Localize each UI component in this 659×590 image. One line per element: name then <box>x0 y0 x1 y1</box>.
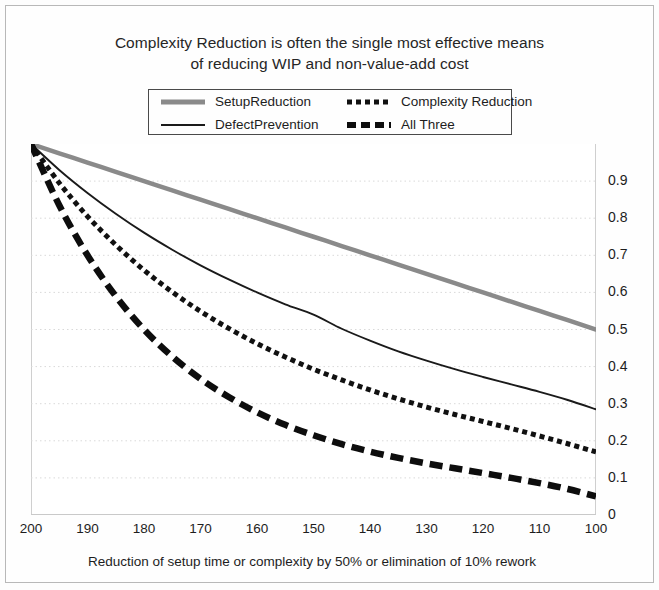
y-axis-tick-label: 0.1 <box>608 469 654 485</box>
legend-label-complexity-reduction: Complexity Reduction <box>401 94 532 109</box>
x-axis-tick-label: 130 <box>404 521 450 536</box>
x-axis-tick-label: 180 <box>121 521 167 536</box>
x-axis-tick-label: 120 <box>460 521 506 536</box>
solid-thin-black-line-icon <box>160 118 206 132</box>
legend-item-defect-prevention: DefectPrevention <box>149 117 335 132</box>
x-axis-label: Reduction of setup time or complexity by… <box>0 554 624 569</box>
legend-item-all-three: All Three <box>335 117 513 132</box>
y-axis-tick-label: 0.9 <box>608 172 654 188</box>
y-axis-tick-label: 0.8 <box>608 209 654 225</box>
x-axis-tick-label: 110 <box>517 521 563 536</box>
legend-item-complexity-reduction: Complexity Reduction <box>335 94 513 109</box>
x-axis-tick-label: 170 <box>178 521 224 536</box>
solid-thick-gray-line-icon <box>160 95 206 109</box>
series-line <box>31 144 596 496</box>
y-axis-tick-label: 0.4 <box>608 358 654 374</box>
y-axis-tick-label: 0.2 <box>608 432 654 448</box>
chart-title-line-1: Complexity Reduction is often the single… <box>0 32 659 53</box>
plot-area <box>31 144 596 515</box>
plot-canvas <box>31 144 596 515</box>
x-axis-tick-label: 100 <box>573 521 619 536</box>
legend-label-all-three: All Three <box>401 117 455 132</box>
dotted-black-line-icon <box>346 95 392 109</box>
y-axis-tick-label: 0.3 <box>608 395 654 411</box>
x-axis-tick-label: 200 <box>8 521 54 536</box>
series-line <box>31 144 596 452</box>
x-axis-tick-label: 160 <box>234 521 280 536</box>
y-axis-tick-label: 0 <box>608 506 654 522</box>
series-line <box>31 144 596 330</box>
series-lines <box>31 144 596 496</box>
dashed-thick-black-line-icon <box>346 118 392 132</box>
y-axis-tick-label: 0.5 <box>608 321 654 337</box>
x-axis-tick-label: 150 <box>291 521 337 536</box>
chart-title-line-2: of reducing WIP and non-value-add cost <box>0 53 659 74</box>
legend-label-defect-prevention: DefectPrevention <box>215 117 319 132</box>
gridlines <box>31 181 596 514</box>
legend-label-setup-reduction: SetupReduction <box>215 94 311 109</box>
chart-title: Complexity Reduction is often the single… <box>0 32 659 74</box>
x-axis-tick-label: 140 <box>347 521 393 536</box>
chart-figure: Complexity Reduction is often the single… <box>0 0 659 590</box>
x-axis-tick-label: 190 <box>65 521 111 536</box>
legend-item-setup-reduction: SetupReduction <box>149 94 335 109</box>
series-line <box>31 144 596 409</box>
y-axis-tick-label: 0.7 <box>608 246 654 262</box>
y-axis-tick-label: 0.6 <box>608 283 654 299</box>
chart-legend: SetupReduction Complexity Reduction Defe… <box>148 89 512 135</box>
